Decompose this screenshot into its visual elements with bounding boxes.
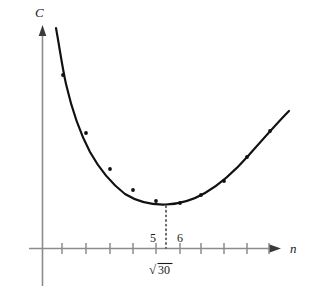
sqrt-thirty-annotation: √ 30: [149, 262, 173, 277]
curve-data-points: [61, 73, 272, 205]
curve-dot-1: [61, 73, 65, 77]
curve-dot-8: [222, 179, 226, 183]
radical-sign-icon: √: [149, 262, 157, 277]
x-axis-label: n: [290, 241, 297, 256]
radicand-label: 30: [158, 263, 170, 277]
curve-dot-9: [245, 155, 249, 159]
cost-function-figure: C n 5 6 √ 30: [0, 0, 313, 297]
curve-dot-6: [178, 201, 182, 205]
curve-dot-2: [84, 131, 88, 135]
cost-curve-path: [56, 28, 289, 205]
curve-dot-10: [268, 129, 272, 133]
x-tick-label-5: 5: [150, 231, 156, 245]
x-axis-arrowhead: [269, 244, 281, 252]
x-tick-label-6: 6: [177, 231, 183, 245]
curve-dot-3: [108, 167, 112, 171]
graph-canvas: C n 5 6 √ 30: [0, 0, 313, 297]
curve-dot-7: [199, 193, 203, 197]
curve-dot-4: [131, 188, 135, 192]
x-axis-group: [29, 244, 281, 252]
curve-dot-5: [154, 199, 158, 203]
y-axis-arrowhead: [39, 25, 47, 36]
y-axis-label: C: [35, 5, 44, 20]
y-axis-group: [39, 25, 47, 286]
